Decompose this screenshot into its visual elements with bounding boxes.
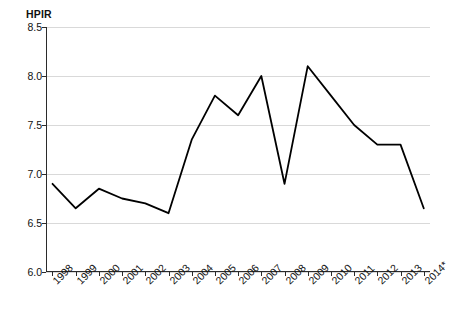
y-axis-ticks: 6.06.57.07.58.08.5 (0, 27, 42, 272)
y-axis-title: HPIR (26, 8, 52, 20)
y-tick-label: 8.0 (2, 70, 42, 82)
y-tick-label: 7.5 (2, 119, 42, 131)
y-tick-label: 6.0 (2, 266, 42, 278)
y-tick-label: 6.5 (2, 217, 42, 229)
y-tick-label: 7.0 (2, 168, 42, 180)
y-tick-label: 8.5 (2, 21, 42, 33)
hpir-line-chart: HPIR 6.06.57.07.58.08.5 1998199920002001… (0, 0, 451, 314)
y-tick-mark (42, 272, 46, 273)
series-line-hpir (46, 27, 430, 272)
